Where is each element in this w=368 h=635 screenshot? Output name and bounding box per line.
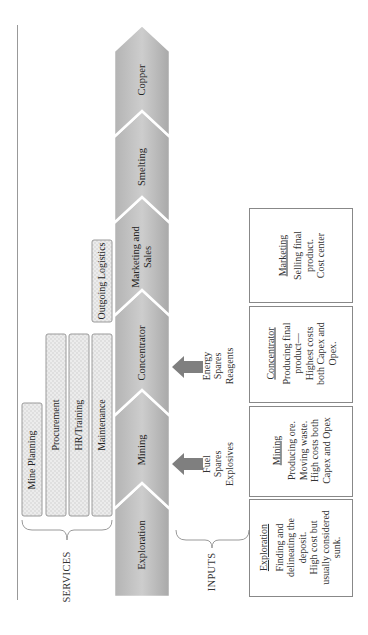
desc-body: Finding and delineating the deposit. Hig… bbox=[274, 510, 343, 585]
desc-title: Marketing bbox=[276, 235, 288, 277]
services-label: SERVICES bbox=[57, 537, 77, 617]
desc-exploration: Exploration Finding and delineating the … bbox=[249, 499, 352, 596]
inputs-label: INPUTS bbox=[202, 537, 222, 607]
input-item: Spares bbox=[212, 353, 224, 380]
service-label-hr-training: HR/Training bbox=[69, 375, 89, 475]
input-item: Energy bbox=[201, 352, 213, 381]
service-label-procurement: Procurement bbox=[46, 375, 66, 475]
desc-concentrator: Concentrator Producing final product— Hi… bbox=[250, 306, 353, 402]
desc-body: Selling final product. Cost center bbox=[292, 231, 327, 280]
desc-mining: Mining Producing ore. Moving waste. High… bbox=[250, 406, 353, 496]
desc-title: Exploration bbox=[258, 524, 270, 571]
desc-title: Concentrator bbox=[265, 327, 277, 379]
stage-label-mining: Mining bbox=[132, 410, 152, 490]
desc-title: Mining bbox=[270, 436, 282, 465]
stage-label-concentrator: Concentrator bbox=[132, 313, 152, 393]
input-item: Fuel bbox=[201, 455, 213, 473]
input-list-concentrator: Energy Spares Reagents bbox=[197, 331, 239, 401]
input-item: Explosives bbox=[224, 442, 236, 486]
service-label-maintenance: Maintenance bbox=[92, 375, 112, 475]
service-label-mine-planning: Mine Planning bbox=[22, 410, 42, 510]
desc-marketing: Marketing Selling final product. Cost ce… bbox=[250, 209, 353, 303]
stage-label-exploration: Exploration bbox=[132, 505, 152, 585]
desc-body: Producing final product— Highest costs b… bbox=[280, 322, 338, 385]
stage-label-marketing: Marketing and Sales bbox=[126, 217, 158, 297]
desc-body: Producing ore. Moving waste. High costs … bbox=[286, 417, 332, 484]
stage-label-smelting: Smelting bbox=[132, 127, 152, 207]
input-item: Reagents bbox=[224, 348, 236, 385]
service-label-outgoing-logistics: Outgoing Logistics bbox=[92, 231, 112, 331]
input-item: Spares bbox=[212, 451, 224, 478]
input-list-mining: Fuel Spares Explosives bbox=[197, 429, 239, 499]
stage-label-copper: Copper bbox=[132, 40, 152, 120]
